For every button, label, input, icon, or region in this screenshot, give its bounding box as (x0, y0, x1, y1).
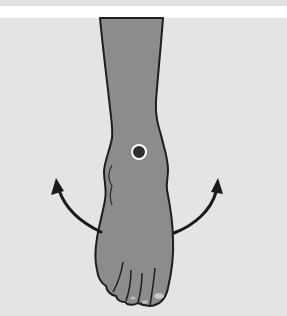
leg-foot-shape (96, 18, 174, 306)
left-arrowhead-icon (51, 178, 64, 195)
right-arrowhead-icon (211, 178, 223, 194)
big-toenail (154, 293, 164, 299)
ankle-marker-icon (132, 145, 146, 159)
rotate-right-arrow-icon (174, 192, 216, 233)
foot-illustration (0, 0, 287, 316)
figure-canvas: Foot rotation illustration (0, 0, 287, 316)
rotate-left-arrow-icon (59, 190, 101, 232)
toenail-3 (131, 296, 136, 299)
toenail-2 (142, 300, 148, 304)
